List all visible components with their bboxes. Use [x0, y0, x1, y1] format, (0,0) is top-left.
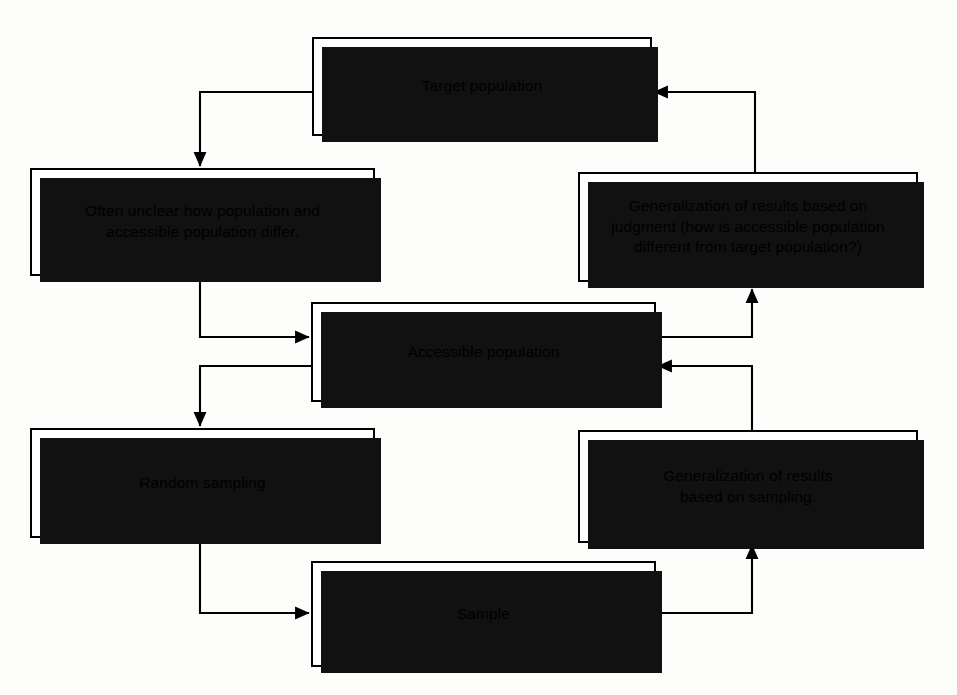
node-often-unclear[interactable]: Often unclear how population and accessi…: [30, 168, 375, 276]
node-sample-label: Sample: [447, 604, 520, 625]
diagram-canvas: Target population Often unclear how popu…: [0, 0, 957, 695]
connector-often-unclear-to-accessible: [200, 276, 309, 337]
connector-generalization-sampling-to-accessible: [658, 366, 752, 430]
connector-accessible-to-random-sampling: [200, 366, 311, 426]
node-target-population-label: Target population: [412, 76, 553, 97]
node-sample[interactable]: Sample: [311, 561, 656, 667]
node-generalization-judgment-label: Generalization of results based on judgm…: [601, 196, 894, 259]
node-accessible-population-label: Accessible population: [397, 342, 569, 363]
node-random-sampling[interactable]: Random sampling: [30, 428, 375, 538]
connector-generalization-judgment-to-target: [654, 92, 755, 172]
node-generalization-sampling-label: Generalization of results based on sampl…: [653, 466, 843, 508]
node-accessible-population[interactable]: Accessible population: [311, 302, 656, 402]
node-generalization-judgment[interactable]: Generalization of results based on judgm…: [578, 172, 918, 282]
node-target-population[interactable]: Target population: [312, 37, 652, 136]
connector-sample-to-generalization-sampling: [656, 545, 752, 613]
node-random-sampling-label: Random sampling: [129, 473, 275, 494]
connector-target-to-often-unclear: [200, 92, 312, 166]
node-generalization-sampling[interactable]: Generalization of results based on sampl…: [578, 430, 918, 543]
node-often-unclear-label: Often unclear how population and accessi…: [75, 201, 330, 243]
connector-accessible-to-generalization-judgment: [656, 289, 752, 337]
connector-random-sampling-to-sample: [200, 538, 309, 613]
